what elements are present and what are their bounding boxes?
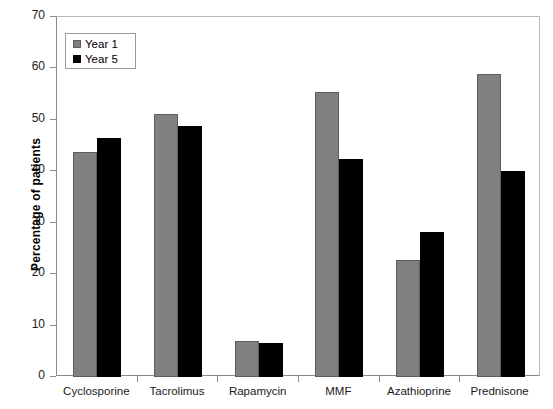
x-category-label-azathioprine: Azathioprine <box>379 385 460 397</box>
bar-cyclosporine-year-5 <box>97 138 121 377</box>
x-category-label-prednisone: Prednisone <box>459 385 540 397</box>
y-tick-label: 30 <box>32 214 45 228</box>
bar-tacrolimus-year-1 <box>154 114 178 377</box>
legend-swatch-icon <box>73 40 81 48</box>
legend-swatch-icon <box>73 55 81 63</box>
bar-tacrolimus-year-5 <box>178 126 202 377</box>
legend-label: Year 1 <box>85 38 118 50</box>
y-tick-label: 20 <box>32 265 45 279</box>
y-tick-label: 0 <box>38 368 45 382</box>
y-tick-label: 70 <box>32 8 45 22</box>
legend-item-year-1: Year 1 <box>73 37 135 51</box>
legend: Year 1Year 5 <box>65 33 136 69</box>
y-tick-label: 50 <box>32 111 45 125</box>
x-category-label-tacrolimus: Tacrolimus <box>137 385 218 397</box>
x-tick-mark <box>217 376 218 382</box>
bar-cyclosporine-year-1 <box>73 152 97 377</box>
bar-azathioprine-year-1 <box>396 260 420 377</box>
legend-item-year-5: Year 5 <box>73 52 135 66</box>
y-tick-label: 10 <box>32 317 45 331</box>
x-tick-mark <box>379 376 380 382</box>
bar-rapamycin-year-5 <box>259 343 283 377</box>
legend-label: Year 5 <box>85 53 118 65</box>
x-category-label-mmf: MMF <box>298 385 379 397</box>
bar-mmf-year-1 <box>315 92 339 377</box>
y-tick-label: 60 <box>32 59 45 73</box>
x-tick-mark <box>298 376 299 382</box>
x-category-label-rapamycin: Rapamycin <box>217 385 298 397</box>
y-tick-mark <box>50 376 56 377</box>
bar-mmf-year-5 <box>339 159 363 377</box>
x-tick-mark <box>137 376 138 382</box>
bar-chart-figure: Percentage of patients 010203040506070 C… <box>0 0 553 409</box>
plot-area <box>56 16 540 376</box>
y-tick-label: 40 <box>32 162 45 176</box>
bar-prednisone-year-1 <box>477 74 501 377</box>
bar-rapamycin-year-1 <box>235 341 259 377</box>
bar-prednisone-year-5 <box>501 171 525 377</box>
x-tick-mark <box>459 376 460 382</box>
bar-azathioprine-year-5 <box>420 232 444 377</box>
x-category-label-cyclosporine: Cyclosporine <box>56 385 137 397</box>
